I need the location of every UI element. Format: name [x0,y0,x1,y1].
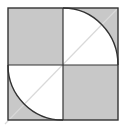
geometry-diagram [0,0,126,128]
quadrant-top-left [8,8,63,65]
quadrant-bottom-right [63,65,118,120]
